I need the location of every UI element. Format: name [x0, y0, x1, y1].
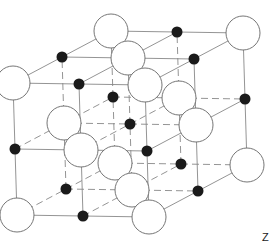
small-ion-dot: [78, 211, 89, 222]
small-ion-dot: [10, 144, 21, 155]
ions: [0, 14, 264, 234]
small-ion-dot: [57, 52, 68, 63]
small-ion-dot: [125, 119, 136, 130]
small-ion-dot: [172, 27, 183, 38]
large-ion-circle: [0, 198, 34, 232]
large-ion-circle: [128, 68, 162, 102]
small-ion-dot: [189, 54, 200, 65]
small-ion-dot: [108, 92, 119, 103]
small-ion-dot: [61, 184, 72, 195]
axis-label-z: Z: [262, 232, 269, 243]
small-ion-dot: [193, 186, 204, 197]
large-ion-circle: [230, 148, 264, 182]
small-ion-dot: [142, 146, 153, 157]
large-ion-circle: [64, 133, 98, 167]
large-ion-circle: [0, 66, 30, 100]
large-ion-circle: [179, 108, 213, 142]
small-ion-dot: [176, 159, 187, 170]
small-ion-dot: [240, 94, 251, 105]
large-ion-circle: [132, 200, 166, 234]
small-ion-dot: [74, 79, 85, 90]
large-ion-circle: [226, 16, 260, 50]
nacl-lattice-diagram: [0, 0, 275, 246]
